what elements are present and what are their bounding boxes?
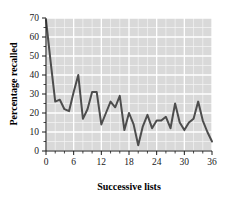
y-tick-label: 10 xyxy=(30,127,40,137)
x-axis-tick-labels: 061218243036 xyxy=(44,157,217,167)
y-tick-label: 40 xyxy=(30,70,40,80)
y-axis-tick-labels: 010203040506070 xyxy=(30,13,40,156)
x-tick-label: 24 xyxy=(152,157,162,167)
y-tick-label: 70 xyxy=(30,13,40,23)
chart-figure: 010203040506070 061218243036 Successive … xyxy=(0,0,235,200)
y-tick-label: 20 xyxy=(30,108,40,118)
x-tick-label: 36 xyxy=(207,157,217,167)
x-tick-label: 18 xyxy=(124,157,134,167)
x-tick-label: 12 xyxy=(97,157,107,167)
y-axis-title: Percentage recalled xyxy=(8,42,19,126)
y-tick-label: 0 xyxy=(34,146,39,156)
y-tick-label: 50 xyxy=(30,51,40,61)
y-tick-label: 30 xyxy=(30,89,40,99)
x-axis-title: Successive lists xyxy=(97,181,161,192)
x-tick-label: 30 xyxy=(180,157,190,167)
line-chart: 010203040506070 061218243036 Successive … xyxy=(0,0,235,200)
x-tick-label: 0 xyxy=(44,157,49,167)
x-tick-label: 6 xyxy=(71,157,76,167)
y-tick-label: 60 xyxy=(30,32,40,42)
